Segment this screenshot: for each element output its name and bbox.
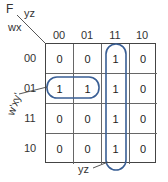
corner-diagonal-line xyxy=(17,15,46,44)
group-loop-wxy xyxy=(47,77,99,98)
group-loop-yz xyxy=(106,44,126,170)
leader-line-yz xyxy=(93,162,108,168)
group-label-yz: yz xyxy=(78,163,89,175)
kmap-overlay xyxy=(0,0,168,182)
